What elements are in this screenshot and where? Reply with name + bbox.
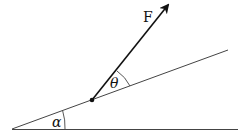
- force-label: F: [143, 9, 153, 25]
- alpha-arc: [63, 111, 65, 129]
- incline-line: [12, 50, 228, 129]
- incline-force-diagram: F θ α: [0, 0, 238, 137]
- application-point: [90, 98, 95, 103]
- theta-label: θ: [110, 75, 119, 91]
- theta-arc: [117, 71, 130, 86]
- alpha-label: α: [52, 114, 62, 130]
